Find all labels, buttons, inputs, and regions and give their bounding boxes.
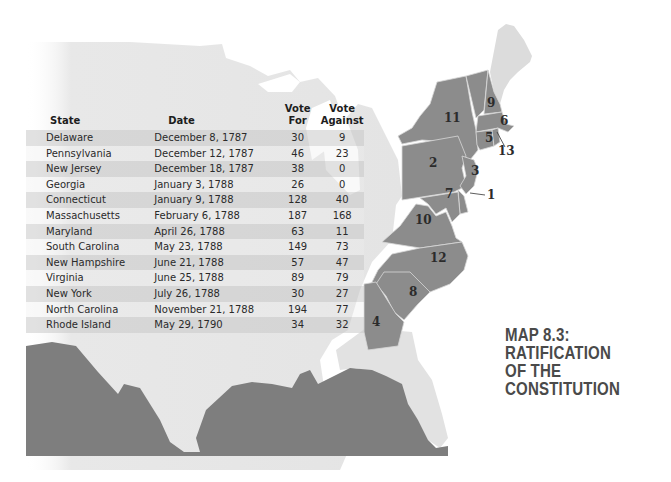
- cell-vote-against: 40: [320, 192, 364, 208]
- map-label-1: 1: [487, 188, 495, 202]
- cell-state: Connecticut: [26, 192, 154, 208]
- map-label-5: 5: [485, 131, 493, 145]
- table-row: Maryland April 26, 1788 63 11: [26, 224, 364, 240]
- cell-vote-for: 26: [275, 177, 320, 193]
- table-row: Massachusetts February 6, 1788 187 168: [26, 208, 364, 224]
- ratification-table: State Date Vote For Vote Against Delawar…: [26, 103, 364, 333]
- cell-date: November 21, 1788: [154, 302, 275, 318]
- cell-state: Massachusetts: [26, 208, 154, 224]
- cell-vote-for: 128: [275, 192, 320, 208]
- cell-date: January 3, 1788: [154, 177, 275, 193]
- cell-state: New York: [26, 286, 154, 302]
- table-row: South Carolina May 23, 1788 149 73: [26, 239, 364, 255]
- header-vote-for: Vote For: [275, 103, 320, 130]
- cell-date: May 23, 1788: [154, 239, 275, 255]
- map-label-7: 7: [445, 187, 453, 201]
- cell-vote-for: 46: [275, 146, 320, 162]
- table-row: Virginia June 25, 1788 89 79: [26, 270, 364, 286]
- header-vote-against: Vote Against: [320, 103, 364, 130]
- map-label-10: 10: [415, 213, 432, 227]
- cell-state: New Hampshire: [26, 255, 154, 271]
- cell-vote-against: 32: [320, 317, 364, 333]
- cell-vote-against: 79: [320, 270, 364, 286]
- cell-date: December 18, 1787: [154, 161, 275, 177]
- cell-vote-for: 57: [275, 255, 320, 271]
- map-label-11: 11: [444, 111, 461, 125]
- map-label-8: 8: [409, 285, 417, 299]
- map-title-line-1: MAP 8.3: RATIFICATION: [505, 326, 651, 362]
- cell-state: Rhode Island: [26, 317, 154, 333]
- cell-vote-against: 27: [320, 286, 364, 302]
- map-title: MAP 8.3: RATIFICATION OF THE CONSTITUTIO…: [505, 326, 651, 398]
- table-row: New Jersey December 18, 1787 38 0: [26, 161, 364, 177]
- cell-vote-for: 38: [275, 161, 320, 177]
- cell-vote-for: 30: [275, 286, 320, 302]
- table-row: New Hampshire June 21, 1788 57 47: [26, 255, 364, 271]
- cell-state: Virginia: [26, 270, 154, 286]
- map-label-9: 9: [487, 96, 495, 110]
- cell-state: South Carolina: [26, 239, 154, 255]
- cell-date: February 6, 1788: [154, 208, 275, 224]
- cell-vote-for: 30: [275, 130, 320, 146]
- cell-date: May 29, 1790: [154, 317, 275, 333]
- table-row: Georgia January 3, 1788 26 0: [26, 177, 364, 193]
- table-row: Connecticut January 9, 1788 128 40: [26, 192, 364, 208]
- cell-vote-against: 77: [320, 302, 364, 318]
- cell-date: June 25, 1788: [154, 270, 275, 286]
- cell-state: Delaware: [26, 130, 154, 146]
- cell-state: Georgia: [26, 177, 154, 193]
- map-label-3: 3: [471, 164, 479, 178]
- map-label-12: 12: [430, 251, 447, 265]
- cell-date: April 26, 1788: [154, 224, 275, 240]
- cell-vote-for: 149: [275, 239, 320, 255]
- table-row: Rhode Island May 29, 1790 34 32: [26, 317, 364, 333]
- cell-date: December 8, 1787: [154, 130, 275, 146]
- table-header-row: State Date Vote For Vote Against: [26, 103, 364, 130]
- map-label-13: 13: [498, 144, 515, 158]
- cell-state: North Carolina: [26, 302, 154, 318]
- map-title-line-2: OF THE CONSTITUTION: [505, 362, 651, 398]
- map-label-4: 4: [372, 315, 380, 329]
- cell-vote-against: 168: [320, 208, 364, 224]
- cell-vote-against: 73: [320, 239, 364, 255]
- cell-date: December 12, 1787: [154, 146, 275, 162]
- cell-date: June 21, 1788: [154, 255, 275, 271]
- cell-state: Maryland: [26, 224, 154, 240]
- cell-date: January 9, 1788: [154, 192, 275, 208]
- cell-vote-against: 11: [320, 224, 364, 240]
- cell-date: July 26, 1788: [154, 286, 275, 302]
- map-label-2: 2: [429, 156, 437, 170]
- cell-vote-against: 0: [320, 161, 364, 177]
- table-row: North Carolina November 21, 1788 194 77: [26, 302, 364, 318]
- cell-vote-for: 89: [275, 270, 320, 286]
- cell-vote-against: 9: [320, 130, 364, 146]
- maine: [490, 24, 532, 104]
- header-date: Date: [154, 103, 275, 130]
- cell-vote-against: 47: [320, 255, 364, 271]
- cell-vote-against: 0: [320, 177, 364, 193]
- cell-vote-against: 23: [320, 146, 364, 162]
- header-state: State: [26, 103, 154, 130]
- cell-state: Pennsylvania: [26, 146, 154, 162]
- cell-vote-for: 187: [275, 208, 320, 224]
- cell-vote-for: 34: [275, 317, 320, 333]
- table-row: Delaware December 8, 1787 30 9: [26, 130, 364, 146]
- cell-state: New Jersey: [26, 161, 154, 177]
- table-row: Pennsylvania December 12, 1787 46 23: [26, 146, 364, 162]
- cell-vote-for: 194: [275, 302, 320, 318]
- cell-vote-for: 63: [275, 224, 320, 240]
- table-row: New York July 26, 1788 30 27: [26, 286, 364, 302]
- leader-line-delaware: [470, 193, 485, 195]
- map-label-6: 6: [500, 114, 508, 128]
